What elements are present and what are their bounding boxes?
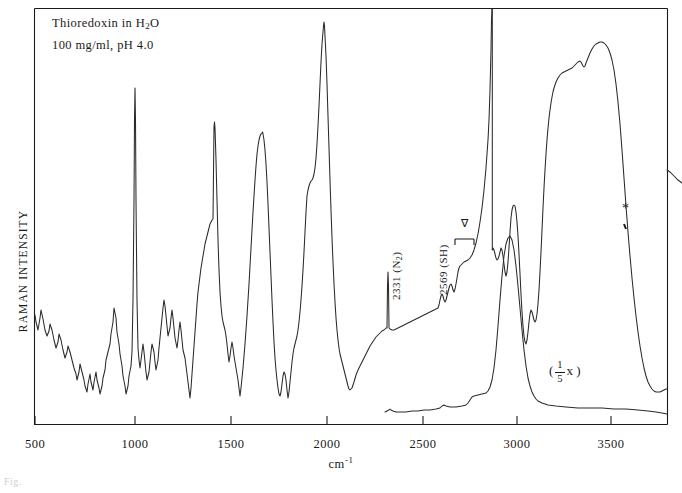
scale-denominator: 5 xyxy=(555,372,564,385)
scale-annotation: (15x ) xyxy=(549,360,581,384)
xtick-label-1500: 1500 xyxy=(218,437,245,452)
caption-line-1: Thioredoxin in H2O xyxy=(52,14,160,36)
xtick-label-1000: 1000 xyxy=(122,437,149,452)
y-axis-label: RAMAN INTENSITY xyxy=(17,196,29,346)
asterisk-tick xyxy=(624,224,626,229)
xtick-label-3500: 3500 xyxy=(598,437,625,452)
asterisk-icon: * xyxy=(622,202,629,216)
spectrum-canvas xyxy=(0,0,682,493)
scale-x: x xyxy=(567,363,574,378)
figure-caption: Thioredoxin in H2O 100 mg/ml, pH 4.0 xyxy=(52,14,160,55)
x-axis-ticks xyxy=(35,416,611,425)
spectrum-trace-main xyxy=(35,9,492,398)
peak-label-n2: 2331 (N2) xyxy=(390,251,404,300)
raman-spectrum-figure: Thioredoxin in H2O 100 mg/ml, pH 4.0 RAM… xyxy=(0,0,682,493)
sh-region-bracket xyxy=(455,239,474,245)
spectrum-trace-right-tail xyxy=(667,170,682,183)
scale-paren-open: ( xyxy=(549,363,553,378)
footer-caption-fragment: Fig. xyxy=(4,476,22,487)
nabla-icon: ∇ xyxy=(461,218,468,229)
xtick-label-2000: 2000 xyxy=(314,437,341,452)
caption-line-2: 100 mg/ml, pH 4.0 xyxy=(52,36,160,55)
scale-numerator: 1 xyxy=(555,360,564,372)
scale-paren-close: ) xyxy=(576,363,580,378)
x-axis-label-base: cm xyxy=(328,457,344,471)
spectrum-trace-scaled xyxy=(385,236,667,414)
scale-fraction: 15 xyxy=(555,360,564,384)
xtick-label-2500: 2500 xyxy=(410,437,437,452)
xtick-label-500: 500 xyxy=(25,437,45,452)
spectrum-trace-high xyxy=(492,42,667,392)
x-axis-label: cm-1 xyxy=(0,455,682,472)
peak-label-sh: 2569 (SH) xyxy=(437,244,449,295)
xtick-label-3000: 3000 xyxy=(504,437,531,452)
x-axis-label-exponent: -1 xyxy=(345,455,354,465)
